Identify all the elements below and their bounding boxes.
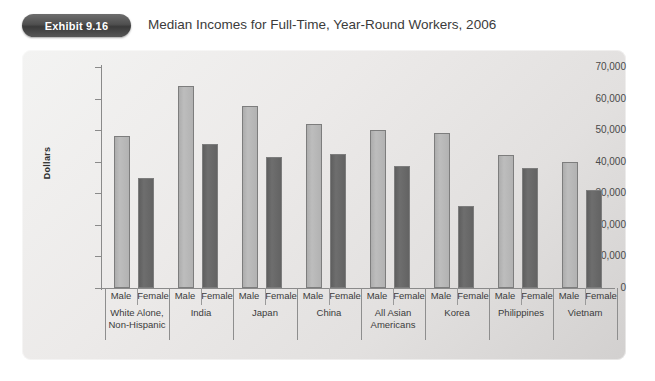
bar-male-2 (242, 106, 258, 288)
subcategory-label: Female (201, 290, 233, 301)
subcategory-label: Female (585, 290, 617, 301)
category-label: Vietnam (553, 307, 617, 319)
bar-female-4 (394, 166, 410, 288)
subcategory-separator (393, 288, 394, 305)
exhibit-header: Exhibit 9.16 Median Incomes for Full-Tim… (0, 0, 655, 48)
y-axis-tick (95, 225, 101, 226)
subcategory-label: Male (297, 290, 329, 301)
subcategory-label: Female (521, 290, 553, 301)
y-axis-title: Dollars (42, 133, 52, 193)
bar-female-1 (202, 144, 218, 288)
subcategory-separator (457, 288, 458, 305)
bar-male-6 (498, 155, 514, 288)
bar-male-5 (434, 133, 450, 288)
category-label: Philippines (489, 307, 553, 319)
subcategory-label: Female (393, 290, 425, 301)
subcategory-label: Male (553, 290, 585, 301)
bar-male-3 (306, 124, 322, 288)
y-axis-tick (95, 67, 101, 68)
category-label: China (297, 307, 361, 319)
bar-female-5 (458, 206, 474, 288)
subcategory-label: Male (425, 290, 457, 301)
subcategory-separator (137, 288, 138, 305)
y-axis-tick (95, 193, 101, 194)
exhibit-number-badge: Exhibit 9.16 (22, 14, 131, 37)
bar-female-7 (586, 190, 602, 288)
subcategory-separator (265, 288, 266, 305)
bar-female-6 (522, 168, 538, 288)
subcategory-label: Male (361, 290, 393, 301)
subcategory-label: Male (105, 290, 137, 301)
category-label: India (169, 307, 233, 319)
category-label: Japan (233, 307, 297, 319)
bar-male-0 (114, 136, 130, 288)
bar-female-2 (266, 157, 282, 288)
subcategory-separator (521, 288, 522, 305)
bar-female-3 (330, 154, 346, 288)
y-axis-tick (95, 162, 101, 163)
category-label: White Alone,Non-Hispanic (105, 307, 169, 330)
y-axis-tick (95, 130, 101, 131)
y-axis-tick (95, 256, 101, 257)
subcategory-label: Male (233, 290, 265, 301)
subcategory-separator (585, 288, 586, 305)
bar-male-4 (370, 130, 386, 288)
category-separator (617, 288, 618, 340)
bar-male-7 (562, 162, 578, 288)
plot-area: Dollars 70,00060,00050,00040,00030,00020… (22, 50, 626, 360)
category-label: All AsianAmericans (361, 307, 425, 330)
category-label: Korea (425, 307, 489, 319)
subcategory-label: Male (489, 290, 521, 301)
bar-female-0 (138, 178, 154, 289)
category-axis-labels: MaleFemaleWhite Alone,Non-HispanicMaleFe… (101, 288, 615, 344)
subcategory-label: Male (169, 290, 201, 301)
subcategory-separator (329, 288, 330, 305)
chart-panel: Dollars 70,00060,00050,00040,00030,00020… (22, 50, 626, 360)
subcategory-label: Female (457, 290, 489, 301)
y-axis-tick (95, 99, 101, 100)
bar-male-1 (178, 86, 194, 288)
exhibit-title: Median Incomes for Full-Time, Year-Round… (148, 17, 496, 32)
subcategory-label: Female (265, 290, 297, 301)
subcategory-label: Female (329, 290, 361, 301)
exhibit-page: Exhibit 9.16 Median Incomes for Full-Tim… (0, 0, 655, 381)
subcategory-label: Female (137, 290, 169, 301)
subcategory-separator (201, 288, 202, 305)
